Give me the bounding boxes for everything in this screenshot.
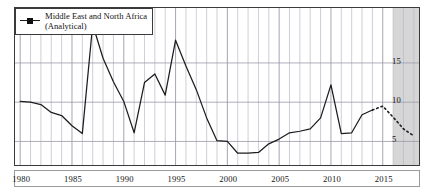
y-axis-tick-label: 15: [392, 56, 401, 66]
x-axis-tick-label: 2015: [375, 174, 393, 184]
x-axis-tick-label: 2000: [219, 174, 237, 184]
legend-label-line2: (Analytical): [45, 21, 147, 31]
x-axis-tick-label: 1990: [116, 174, 134, 184]
legend-label-line1: Middle East and North Africa: [45, 11, 147, 21]
x-axis-tick-label: 1985: [64, 174, 82, 184]
x-axis: 19801985199019952000200520102015: [14, 170, 420, 187]
x-axis-tick-label: 2005: [271, 174, 289, 184]
y-axis-tick-label: 5: [392, 134, 397, 144]
x-axis-tick-label: 2010: [323, 174, 341, 184]
chart-legend: Middle East and North Africa (Analytical…: [15, 8, 153, 35]
x-axis-tick-label: 1980: [12, 174, 30, 184]
y-axis-tick-label: 10: [392, 95, 401, 105]
x-axis-tick-label: 1995: [168, 174, 186, 184]
line-with-square-marker-icon: [20, 15, 40, 27]
legend-label: Middle East and North Africa (Analytical…: [45, 11, 147, 31]
chart-container: Middle East and North Africa (Analytical…: [0, 0, 433, 194]
